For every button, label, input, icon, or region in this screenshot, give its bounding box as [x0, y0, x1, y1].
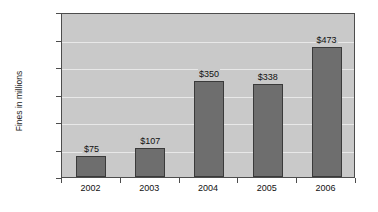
x-tick-mark: [61, 178, 62, 183]
y-axis-title: Fines in millions: [14, 41, 24, 161]
bar-group: $338: [238, 14, 297, 177]
bar-chart: Fines in millions $0$100$200$300$400$500…: [0, 0, 378, 212]
x-tick-label: 2006: [296, 183, 355, 193]
bar-group: $350: [180, 14, 239, 177]
plot-area: $75$107$350$338$473: [61, 13, 355, 178]
bar-value-label: $338: [257, 72, 279, 83]
bar-group: $107: [121, 14, 180, 177]
x-tick-mark: [120, 178, 121, 183]
bar-value-label: $473: [316, 35, 338, 46]
bar[interactable]: [253, 84, 283, 177]
x-tick-mark: [355, 178, 356, 183]
x-tick-label: 2004: [179, 183, 238, 193]
bar[interactable]: [194, 81, 224, 177]
x-tick-mark: [237, 178, 238, 183]
x-tick-label: 2003: [120, 183, 179, 193]
bar-value-label: $350: [198, 69, 220, 80]
bar[interactable]: [135, 148, 165, 177]
bar[interactable]: [76, 156, 106, 177]
bar-value-label: $107: [139, 136, 161, 147]
x-tick-mark: [296, 178, 297, 183]
bar-group: $75: [62, 14, 121, 177]
x-tick-label: 2005: [237, 183, 296, 193]
x-tick-label: 2002: [61, 183, 120, 193]
bar[interactable]: [312, 47, 342, 177]
bar-value-label: $75: [83, 144, 100, 155]
x-tick-mark: [179, 178, 180, 183]
bar-group: $473: [297, 14, 356, 177]
bars-layer: $75$107$350$338$473: [62, 14, 354, 177]
